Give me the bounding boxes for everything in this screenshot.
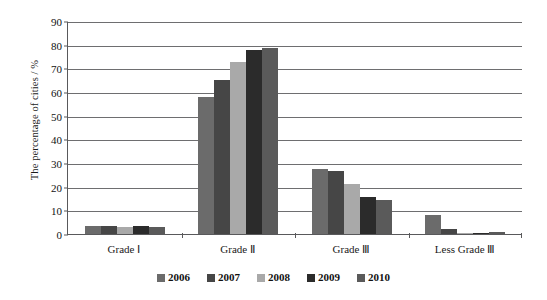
bar-group (409, 22, 523, 234)
bar[interactable] (425, 215, 441, 234)
bar[interactable] (344, 184, 360, 234)
legend-label: 2009 (318, 272, 340, 283)
y-tick-label: 30 (51, 158, 62, 170)
bar[interactable] (489, 232, 505, 234)
bars-layer (68, 22, 522, 234)
x-axis-label: Grade Ⅱ (181, 243, 295, 256)
y-tick-label: 60 (51, 87, 62, 99)
x-tick-mark (182, 233, 183, 238)
legend-swatch-icon (257, 274, 265, 282)
legend-label: 2010 (368, 272, 390, 283)
bar[interactable] (262, 48, 278, 234)
legend-swatch-icon (357, 274, 365, 282)
y-tick-mark (64, 235, 68, 236)
y-tick-label: 20 (51, 182, 62, 194)
y-tick-label: 80 (51, 40, 62, 52)
bar-group (295, 22, 409, 234)
y-tick-label: 0 (57, 229, 63, 241)
bar[interactable] (441, 229, 457, 234)
bar[interactable] (230, 62, 246, 234)
bar[interactable] (360, 197, 376, 234)
legend-item[interactable]: 2008 (257, 272, 290, 283)
bar[interactable] (149, 227, 165, 234)
x-axis-label: Less Grade Ⅲ (408, 243, 522, 256)
bar[interactable] (101, 226, 117, 234)
x-axis-label: Grade Ⅲ (295, 243, 409, 256)
bar-chart: The percentage of cities / % 01020304050… (0, 0, 547, 300)
bar[interactable] (214, 80, 230, 234)
bar[interactable] (312, 169, 328, 234)
bar[interactable] (133, 226, 149, 234)
legend-item[interactable]: 2009 (307, 272, 340, 283)
x-tick-mark (409, 233, 410, 238)
bar-group (68, 22, 182, 234)
legend-swatch-icon (307, 274, 315, 282)
bar[interactable] (117, 227, 133, 234)
legend-label: 2006 (168, 272, 190, 283)
x-tick-mark (521, 233, 522, 238)
legend-item[interactable]: 2007 (207, 272, 240, 283)
bar[interactable] (457, 233, 473, 234)
x-axis-labels: Grade ⅠGrade ⅡGrade ⅢLess Grade Ⅲ (67, 243, 522, 256)
bar[interactable] (473, 233, 489, 234)
bar[interactable] (198, 97, 214, 234)
y-tick-label: 70 (51, 63, 62, 75)
y-tick-label: 40 (51, 134, 62, 146)
x-axis-label: Grade Ⅰ (67, 243, 181, 256)
y-tick-label: 10 (51, 205, 62, 217)
y-tick-label: 50 (51, 111, 62, 123)
bar[interactable] (246, 50, 262, 234)
legend-swatch-icon (207, 274, 215, 282)
plot-area: 0102030405060708090 (67, 22, 522, 235)
bar-group (182, 22, 296, 234)
legend-swatch-icon (157, 274, 165, 282)
legend-item[interactable]: 2010 (357, 272, 390, 283)
legend: 20062007200820092010 (0, 272, 547, 283)
x-tick-mark (295, 233, 296, 238)
legend-label: 2008 (268, 272, 290, 283)
bar[interactable] (376, 200, 392, 234)
y-axis-title: The percentage of cities / % (24, 4, 46, 236)
legend-label: 2007 (218, 272, 240, 283)
bar[interactable] (85, 226, 101, 234)
bar[interactable] (328, 171, 344, 234)
legend-item[interactable]: 2006 (157, 272, 190, 283)
y-tick-label: 90 (51, 16, 62, 28)
